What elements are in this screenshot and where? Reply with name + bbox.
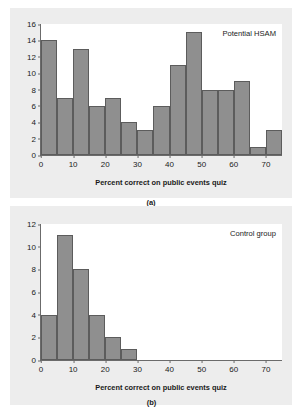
y-tick-label: 8: [32, 265, 41, 274]
x-tick-label: 60: [229, 360, 238, 374]
x-tick-label: 20: [101, 360, 110, 374]
chart-panel-b: Number of individuals quizzed 024681012 …: [10, 206, 292, 405]
histogram-bar: [266, 130, 282, 155]
y-tick-label: 12: [27, 52, 41, 61]
y-tick-label: 10: [27, 242, 41, 251]
y-tick-label: 4: [32, 310, 41, 319]
x-tick-label: 0: [39, 155, 43, 169]
histogram-control-group: Number of individuals quizzed 024681012 …: [10, 206, 292, 405]
histogram-bar: [73, 49, 89, 155]
figure-page: Number of individuals quizzed 0246810121…: [0, 0, 303, 413]
y-tick-label: 14: [27, 36, 41, 45]
y-tick-label: 12: [27, 220, 41, 229]
histogram-bar: [121, 349, 137, 360]
x-tick-label: 40: [165, 360, 174, 374]
histogram-bar: [89, 315, 105, 360]
histogram-bar: [105, 337, 121, 360]
plot-area-a: 0246810121416 010203040506070 Potential …: [40, 24, 282, 156]
histogram-bar: [137, 130, 153, 155]
histogram-bar: [41, 315, 57, 360]
histogram-bar: [234, 81, 250, 155]
histogram-bar: [202, 90, 218, 156]
x-tick-label: 0: [39, 360, 43, 374]
plot-area-b: 024681012 010203040506070 Control group: [40, 224, 282, 361]
y-tick-label: 4: [32, 118, 41, 127]
x-tick-label: 10: [69, 360, 78, 374]
histogram-bar: [153, 106, 169, 155]
bar-group-b: [41, 224, 282, 360]
plot-area-wrapper-a: 0246810121416 010203040506070 Potential …: [40, 24, 282, 156]
x-tick-label: 50: [197, 360, 206, 374]
y-tick-label: 6: [32, 288, 41, 297]
x-tick-label: 60: [229, 155, 238, 169]
histogram-bar: [105, 98, 121, 155]
x-tick-label: 20: [101, 155, 110, 169]
y-tick-label: 6: [32, 101, 41, 110]
histogram-bar: [250, 147, 266, 155]
chart-panel-a: Number of individuals quizzed 0246810121…: [10, 8, 292, 198]
y-tick-label: 10: [27, 69, 41, 78]
histogram-bar: [218, 90, 234, 156]
y-tick-label: 2: [32, 333, 41, 342]
x-tick-label: 30: [133, 360, 142, 374]
histogram-bar: [57, 98, 73, 155]
series-label-a: Potential HSAM: [222, 29, 276, 38]
histogram-bar: [57, 235, 73, 360]
histogram-bar: [73, 269, 89, 360]
histogram-bar: [41, 40, 57, 155]
bar-group-a: [41, 24, 282, 155]
series-label-b: Control group: [230, 229, 276, 238]
histogram-bar: [89, 106, 105, 155]
x-tick-label: 10: [69, 155, 78, 169]
histogram-bar: [170, 65, 186, 155]
histogram-bar: [121, 122, 137, 155]
plot-area-wrapper-b: 024681012 010203040506070 Control group: [40, 224, 282, 361]
x-axis-title-b: Percent correct on public events quiz: [40, 383, 282, 392]
x-tick-label: 70: [261, 155, 270, 169]
x-tick-label: 30: [133, 155, 142, 169]
histogram-potential-hsam: Number of individuals quizzed 0246810121…: [10, 8, 292, 198]
x-axis-title-a: Percent correct on public events quiz: [40, 178, 282, 187]
x-tick-label: 70: [261, 360, 270, 374]
x-tick-label: 50: [197, 155, 206, 169]
histogram-bar: [186, 32, 202, 155]
x-tick-label: 40: [165, 155, 174, 169]
panel-caption-b: (b): [0, 398, 303, 407]
y-tick-label: 16: [27, 20, 41, 29]
y-tick-label: 2: [32, 134, 41, 143]
y-tick-label: 8: [32, 85, 41, 94]
